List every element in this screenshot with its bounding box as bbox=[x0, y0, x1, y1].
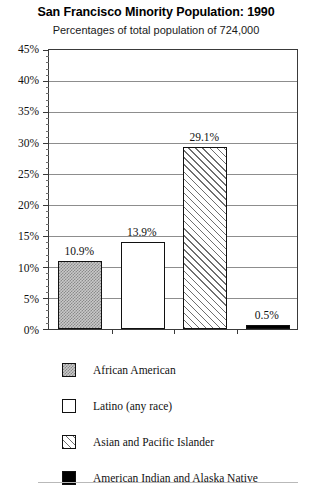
chart-subtitle: Percentages of total population of 724,0… bbox=[0, 24, 312, 36]
bar-value-label: 13.9% bbox=[127, 226, 157, 238]
y-tick-minor bbox=[46, 224, 49, 225]
y-tick-minor bbox=[46, 310, 49, 311]
chart-title: San Francisco Minority Population: 1990 bbox=[0, 5, 312, 19]
y-axis-label: 30% bbox=[0, 137, 39, 149]
legend-item[interactable]: American Indian and Alaska Native bbox=[62, 460, 302, 495]
y-tick-minor bbox=[46, 292, 49, 293]
legend: African AmericanLatino (any race)Asian a… bbox=[62, 352, 302, 495]
y-tick-major bbox=[43, 298, 49, 299]
y-axis-label: 40% bbox=[0, 74, 39, 86]
y-tick-minor bbox=[46, 279, 49, 280]
bar bbox=[246, 325, 290, 329]
gridline bbox=[49, 174, 297, 175]
y-tick-minor bbox=[46, 100, 49, 101]
y-tick-major bbox=[43, 236, 49, 237]
y-tick-major bbox=[43, 50, 49, 51]
legend-swatch-icon bbox=[62, 399, 76, 413]
bar bbox=[121, 242, 165, 329]
y-tick-minor bbox=[46, 137, 49, 138]
legend-swatch-icon bbox=[62, 363, 76, 377]
gridline bbox=[49, 143, 297, 144]
y-tick-minor bbox=[46, 118, 49, 119]
y-tick-minor bbox=[46, 87, 49, 88]
y-tick-minor bbox=[46, 255, 49, 256]
y-tick-major bbox=[43, 81, 49, 82]
y-tick-major bbox=[43, 174, 49, 175]
bar-value-label: 0.5% bbox=[255, 309, 279, 321]
y-tick-minor bbox=[46, 124, 49, 125]
y-tick-minor bbox=[46, 75, 49, 76]
legend-label: African American bbox=[93, 364, 176, 376]
legend-label: Asian and Pacific Islander bbox=[93, 436, 214, 448]
y-tick-minor bbox=[46, 317, 49, 318]
y-tick-minor bbox=[46, 62, 49, 63]
gridline bbox=[49, 205, 297, 206]
legend-item[interactable]: African American bbox=[62, 352, 302, 388]
bar-chart: San Francisco Minority Population: 1990 … bbox=[0, 0, 312, 495]
legend-item[interactable]: Latino (any race) bbox=[62, 388, 302, 424]
bar bbox=[58, 261, 102, 329]
y-tick-minor bbox=[46, 186, 49, 187]
bar bbox=[183, 147, 227, 329]
y-tick-minor bbox=[46, 323, 49, 324]
y-axis-label: 10% bbox=[0, 262, 39, 274]
y-axis-label: 0% bbox=[0, 324, 39, 336]
y-tick-major bbox=[43, 205, 49, 206]
y-tick-minor bbox=[46, 106, 49, 107]
y-tick-minor bbox=[46, 211, 49, 212]
y-tick-minor bbox=[46, 242, 49, 243]
y-tick-minor bbox=[46, 56, 49, 57]
y-axis-label: 45% bbox=[0, 43, 39, 55]
y-axis-label: 5% bbox=[0, 293, 39, 305]
y-tick-minor bbox=[46, 162, 49, 163]
y-tick-minor bbox=[46, 286, 49, 287]
y-tick-major bbox=[43, 112, 49, 113]
y-tick-major bbox=[43, 329, 49, 330]
y-tick-minor bbox=[46, 149, 49, 150]
y-axis-label: 35% bbox=[0, 105, 39, 117]
plot-area bbox=[48, 49, 298, 330]
y-tick-minor bbox=[46, 217, 49, 218]
y-tick-minor bbox=[46, 248, 49, 249]
x-tick bbox=[112, 329, 113, 334]
y-tick-minor bbox=[46, 180, 49, 181]
y-tick-minor bbox=[46, 273, 49, 274]
legend-swatch-icon bbox=[62, 435, 76, 449]
gridline bbox=[49, 81, 297, 82]
bar-value-label: 10.9% bbox=[64, 245, 94, 257]
y-axis-label: 15% bbox=[0, 230, 39, 242]
y-tick-major bbox=[43, 143, 49, 144]
bottom-divider bbox=[38, 482, 298, 483]
y-tick-minor bbox=[46, 304, 49, 305]
y-tick-minor bbox=[46, 93, 49, 94]
y-axis-label: 25% bbox=[0, 168, 39, 180]
gridline bbox=[49, 112, 297, 113]
x-tick bbox=[237, 329, 238, 334]
legend-label: Latino (any race) bbox=[93, 400, 172, 412]
bar-value-label: 29.1% bbox=[189, 131, 219, 143]
y-tick-minor bbox=[46, 199, 49, 200]
legend-item[interactable]: Asian and Pacific Islander bbox=[62, 424, 302, 460]
y-tick-minor bbox=[46, 261, 49, 262]
y-tick-minor bbox=[46, 230, 49, 231]
y-axis-label: 20% bbox=[0, 199, 39, 211]
gridline bbox=[49, 236, 297, 237]
y-tick-minor bbox=[46, 131, 49, 132]
y-tick-minor bbox=[46, 155, 49, 156]
y-tick-minor bbox=[46, 193, 49, 194]
x-tick bbox=[174, 329, 175, 334]
y-tick-major bbox=[43, 267, 49, 268]
y-tick-minor bbox=[46, 168, 49, 169]
y-tick-minor bbox=[46, 69, 49, 70]
